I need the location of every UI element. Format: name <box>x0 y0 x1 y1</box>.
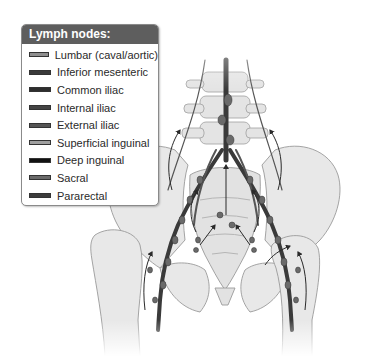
legend-label: Common iliac <box>57 84 124 96</box>
legend-item-sacral: Sacral <box>29 169 158 187</box>
legend-item-common-iliac: Common iliac <box>29 81 158 99</box>
legend-item-inferior-mesenteric: Inferior mesenteric <box>29 64 158 82</box>
swatch-icon <box>29 123 51 128</box>
legend-label: Internal iliac <box>57 102 116 114</box>
swatch-icon <box>29 52 49 57</box>
legend-label: Sacral <box>57 172 88 184</box>
swatch-icon <box>29 105 51 110</box>
legend-label: Inferior mesenteric <box>57 66 148 78</box>
swatch-icon <box>29 70 51 75</box>
legend-label: Deep inguinal <box>57 154 124 166</box>
legend-item-external-iliac: External iliac <box>29 116 158 134</box>
legend-label: Superficial inguinal <box>57 137 149 149</box>
swatch-icon <box>29 175 51 180</box>
legend-label: External iliac <box>57 119 119 131</box>
legend-item-pararectal: Pararectal <box>29 187 158 205</box>
legend-label: Lumbar (caval/aortic) <box>55 49 158 61</box>
swatch-icon <box>29 193 51 198</box>
legend-list: Lumbar (caval/aortic) Inferior mesenteri… <box>22 44 158 204</box>
legend-label: Pararectal <box>57 190 107 202</box>
swatch-icon <box>29 87 51 92</box>
legend-item-internal-iliac: Internal iliac <box>29 99 158 117</box>
legend-item-superficial-inguinal: Superficial inguinal <box>29 134 158 152</box>
swatch-icon <box>29 158 51 163</box>
swatch-icon <box>29 140 51 145</box>
legend-item-deep-inguinal: Deep inguinal <box>29 152 158 170</box>
legend-title: Lymph nodes: <box>22 25 158 44</box>
legend-item-lumbar: Lumbar (caval/aortic) <box>29 46 158 64</box>
legend: Lymph nodes: Lumbar (caval/aortic) Infer… <box>21 24 159 206</box>
